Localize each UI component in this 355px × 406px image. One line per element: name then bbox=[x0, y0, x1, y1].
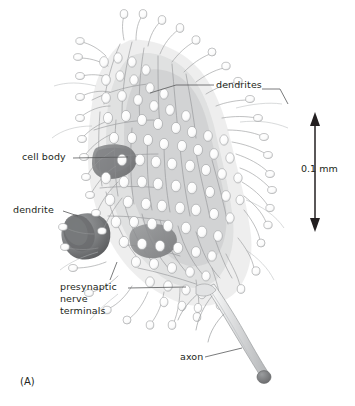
leader-presynaptic-b bbox=[110, 262, 117, 280]
scale-bar-label: 0.1 mm bbox=[301, 163, 338, 174]
leader-axon bbox=[205, 348, 242, 357]
label-cell-body: cell body bbox=[22, 151, 66, 163]
leader-dendrites-right bbox=[262, 89, 288, 104]
label-presynaptic-nerve-terminals: presynaptic nerve terminals bbox=[60, 281, 117, 317]
panel-letter: (A) bbox=[20, 376, 35, 387]
axon-shape bbox=[178, 284, 271, 383]
neuron-figure: dendrites cell body dendrite presynaptic… bbox=[0, 0, 355, 406]
label-axon: axon bbox=[180, 351, 203, 363]
label-dendrites: dendrites bbox=[216, 79, 262, 91]
neuron-drawing bbox=[0, 0, 355, 406]
label-dendrite: dendrite bbox=[13, 204, 54, 216]
